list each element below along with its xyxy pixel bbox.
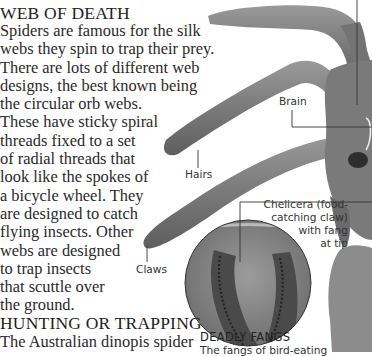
label-line: at tip <box>258 237 348 250</box>
label-claws: Claws <box>136 263 167 276</box>
text-line: are designed to catch <box>0 205 214 223</box>
caption-text-deadly-fangs: The fangs of bird-eating <box>200 344 327 356</box>
text-line: webs are designed <box>0 242 214 260</box>
label-chelicera: Chelicera (food- catching claw) with fan… <box>258 198 348 250</box>
section-body-web-of-death: Spiders are famous for the silk webs the… <box>0 22 214 315</box>
text-line: look like the spokes of <box>0 168 214 186</box>
label-line: with fang <box>258 224 348 237</box>
text-line: designs, the best known being <box>0 77 214 95</box>
text-line: The Australian dinopis spider <box>0 333 193 351</box>
text-line: the circular orb webs. <box>0 95 214 113</box>
text-line: a bicycle wheel. They <box>0 187 214 205</box>
text-line: to trap insects <box>0 260 214 278</box>
text-line: There are lots of different web <box>0 59 214 77</box>
text-line: flying insects. Other <box>0 223 214 241</box>
text-line: that scuttle over <box>0 278 214 296</box>
text-line: These have sticky spiral <box>0 113 214 131</box>
text-line: the ground. <box>0 296 214 314</box>
section-body-hunting-or-trapping: The Australian dinopis spider <box>0 333 193 351</box>
text-line: threads fixed to a set <box>0 132 214 150</box>
label-hairs: Hairs <box>185 168 212 181</box>
text-line: Spiders are famous for the silk <box>0 22 214 40</box>
section-heading-web-of-death: WEB OF DEATH <box>0 4 130 22</box>
label-line: Chelicera (food- <box>258 198 348 211</box>
caption-title-deadly-fangs: DEADLY FANGS <box>200 330 290 344</box>
label-line: catching claw) <box>258 211 348 224</box>
text-line: webs they spin to trap their prey. <box>0 40 214 58</box>
section-heading-hunting-or-trapping: HUNTING OR TRAPPING <box>0 314 202 332</box>
text-line: of radial threads that <box>0 150 214 168</box>
label-brain: Brain <box>279 95 307 108</box>
